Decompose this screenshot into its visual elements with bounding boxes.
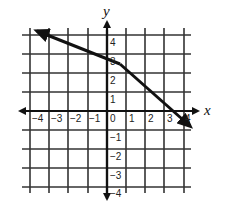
svg-text:−2: −2 [110,151,122,162]
svg-text:−2: −2 [70,113,82,124]
svg-text:3: 3 [110,56,116,67]
svg-text:−4: −4 [110,188,122,199]
x-axis-label: x [203,102,211,118]
svg-text:−1: −1 [110,132,122,143]
svg-text:2: 2 [148,113,154,124]
svg-text:−3: −3 [51,113,63,124]
coordinate-plane: −4 −3 −2 −1 0 1 2 3 4 4 3 2 1 −1 −2 −3 −… [0,0,226,206]
y-axis-label: y [101,3,110,19]
svg-text:4: 4 [110,37,116,48]
svg-text:−1: −1 [89,113,101,124]
svg-text:0: 0 [110,113,116,124]
x-tick-labels: −4 −3 −2 −1 0 1 2 3 4 [32,113,191,124]
svg-text:1: 1 [110,94,116,105]
svg-text:1: 1 [129,113,135,124]
svg-text:4: 4 [185,113,191,124]
svg-text:3: 3 [167,113,173,124]
svg-text:−4: −4 [32,113,44,124]
svg-text:2: 2 [110,75,116,86]
svg-text:−3: −3 [110,170,122,181]
